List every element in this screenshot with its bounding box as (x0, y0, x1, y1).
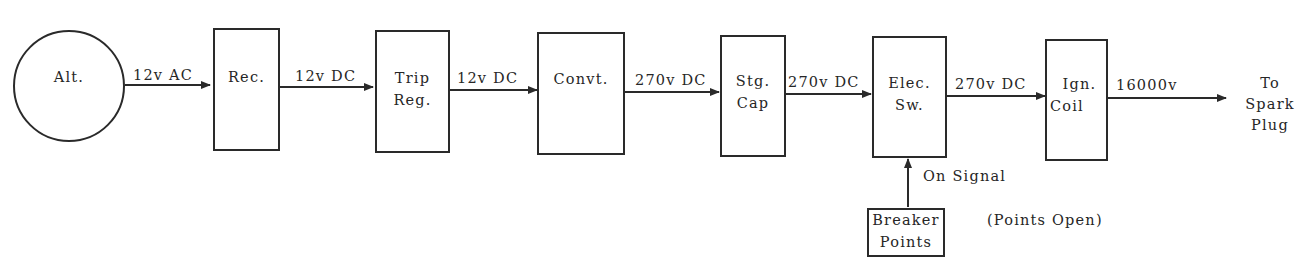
node-rectifier-label: Rec. (213, 66, 280, 88)
edge-label-270v-dc-3: 270v DC (955, 73, 1027, 95)
node-trip-regulator-line2: Reg. (375, 89, 450, 111)
edge-label-12v-ac: 12v AC (133, 64, 193, 86)
annotation-points-open: (Points Open) (987, 209, 1103, 231)
node-spark-plug-line1: To (1240, 72, 1300, 94)
node-converter (537, 32, 625, 155)
node-converter-label: Convt. (537, 68, 625, 90)
connector-lines (0, 0, 1305, 271)
edge-label-12v-dc-2: 12v DC (457, 67, 518, 89)
edge-label-270v-dc-2: 270v DC (788, 71, 860, 93)
edge-label-16000v: 16000v (1116, 74, 1178, 96)
node-trip-regulator-line1: Trip (375, 67, 450, 89)
node-electronic-switch-line1: Elec. (872, 72, 947, 94)
node-ignition-coil-line2: Coil (1050, 95, 1084, 117)
node-storage-capacitor-line2: Cap (720, 92, 786, 114)
node-rectifier (213, 28, 280, 151)
node-ignition-coil-line1: Ign. (1045, 73, 1108, 95)
node-breaker-points-line2: Points (867, 231, 945, 253)
edge-label-270v-dc-1: 270v DC (635, 69, 707, 91)
edge-label-12v-dc-1: 12v DC (295, 65, 356, 87)
node-storage-capacitor-line1: Stg. (720, 70, 786, 92)
node-spark-plug-line2: Spark (1240, 93, 1300, 115)
edge-label-on-signal: On Signal (923, 165, 1006, 187)
node-electronic-switch-line2: Sw. (872, 94, 947, 116)
node-spark-plug-line3: Plug (1240, 114, 1300, 136)
node-alternator-label: Alt. (13, 66, 125, 88)
node-breaker-points-line1: Breaker (867, 209, 945, 231)
